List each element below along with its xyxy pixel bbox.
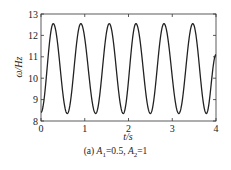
y-axis-label: ω/Hz [13,56,24,77]
caption-a1-value: =0.5, [106,146,128,156]
y-tick-label: 8 [33,116,38,127]
figure-caption: (a) A1=0.5, A2=1 [0,146,231,159]
y-tick-label: 13 [28,9,38,20]
y-tick-label: 11 [28,51,38,62]
x-tick-label: 1 [82,123,87,134]
x-tick-label: 4 [214,123,219,134]
line-chart: 012348910111213 t/s ω/Hz [0,0,231,170]
y-tick-label: 10 [28,73,38,84]
caption-prefix: (a) [84,146,97,156]
x-tick-label: 3 [170,123,175,134]
y-tick-label: 9 [33,94,38,105]
omega-curve [41,24,216,114]
caption-a2-value: =1 [137,146,147,156]
axis-ticks: 012348910111213 [28,9,219,135]
x-axis-label: t/s [123,131,133,142]
y-tick-label: 12 [28,30,38,41]
x-tick-label: 0 [39,123,44,134]
